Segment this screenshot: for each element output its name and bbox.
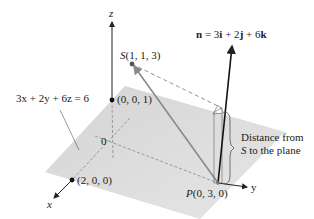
n-eq-part3: + 6 xyxy=(243,28,260,40)
point-P-label: P(0, 3, 0) xyxy=(186,188,228,199)
plane-leader-line xyxy=(60,110,79,150)
point-P-coords: (0, 3, 0) xyxy=(193,187,228,199)
y-axis-label: y xyxy=(251,182,257,193)
point-x-intercept xyxy=(70,178,75,183)
distance-annotation-line2: to the plane xyxy=(247,144,301,156)
x-axis-label: x xyxy=(47,199,52,210)
n-eq-part1: = 3 xyxy=(202,28,219,40)
distance-annotation-line1: Distance from xyxy=(241,131,304,143)
z-intercept-label: (0, 0, 1) xyxy=(117,94,152,105)
point-P xyxy=(216,181,220,185)
point-S-label: S(1, 1, 3) xyxy=(120,50,160,61)
normal-vector-label: n = 3i + 2j + 6k xyxy=(196,29,267,40)
origin-label: 0 xyxy=(101,136,107,147)
point-S-coords: (1, 1, 3) xyxy=(126,49,161,61)
x-axis xyxy=(54,180,72,198)
point-S xyxy=(130,62,135,67)
point-P-name: P xyxy=(186,187,193,199)
n-eq-part2: + 2 xyxy=(222,28,239,40)
plane-equation-label: 3x + 2y + 6z = 6 xyxy=(16,93,89,104)
distance-annotation: Distance from S to the plane xyxy=(241,131,304,157)
z-axis-label: z xyxy=(109,8,113,19)
n-k: k xyxy=(261,28,267,40)
figure-canvas: z S(1, 1, 3) n = 3i + 2j + 6k 3x + 2y + … xyxy=(0,0,314,219)
point-z-intercept xyxy=(110,98,115,103)
x-intercept-label: (2, 0, 0) xyxy=(77,175,112,186)
